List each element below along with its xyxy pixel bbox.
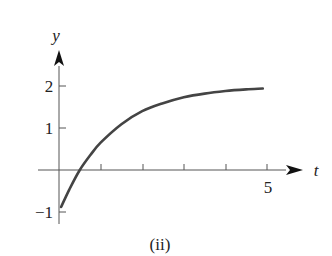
y-tick-label-neg1: −1: [35, 203, 53, 222]
y-tick-label-1: 1: [45, 119, 54, 138]
y-ticks: [59, 86, 66, 212]
axes: [38, 50, 303, 224]
chart: y t 2 1 −1 5 (ii): [0, 0, 332, 256]
figure-caption: (ii): [150, 235, 171, 254]
t-ticks: [101, 164, 267, 170]
y-axis-label: y: [50, 26, 60, 45]
y-axis-arrow-icon: [54, 50, 64, 66]
t-axis-label: t: [314, 161, 320, 180]
y-tick-label-2: 2: [45, 77, 54, 96]
t-tick-label-5: 5: [264, 178, 273, 197]
data-curve: [61, 89, 263, 208]
t-axis-arrow-icon: [286, 165, 303, 175]
